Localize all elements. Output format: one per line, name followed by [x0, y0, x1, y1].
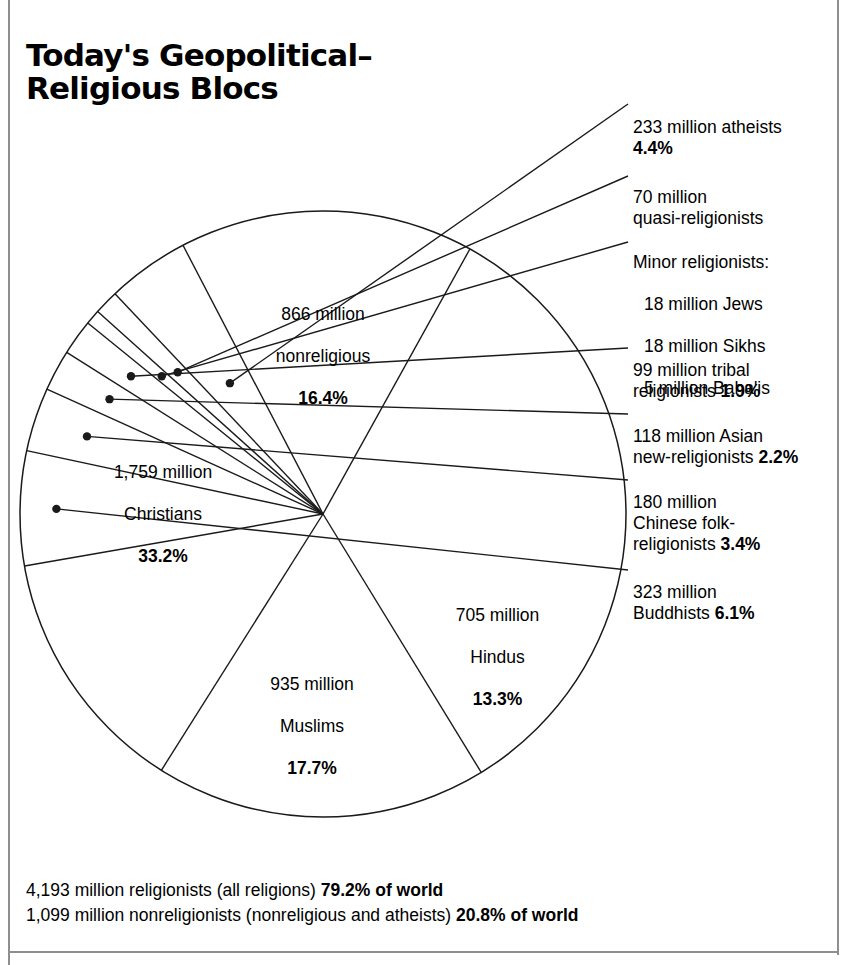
callout-label-chinese-folk-religionists: 180 million Chinese folk- religionists 3…: [633, 471, 838, 555]
callout-label-atheists-percent: 4.4%: [633, 138, 673, 158]
slice-label-nonreligious-percent: 16.4%: [298, 388, 348, 408]
slice-label-christians-line2: Christians: [124, 504, 202, 524]
callout-label-minor-item-jews: 18 million Jews: [633, 294, 838, 315]
callout-label-quasi-religionists-text: 70 million quasi-religionists: [633, 187, 763, 228]
callout-label-atheists-text: 233 million atheists: [633, 117, 782, 137]
slice-label-christians: 1,759 million Christians 33.2%: [68, 441, 258, 567]
slice-label-hindus: 705 million Hindus 13.3%: [410, 584, 585, 710]
callout-label-asian-text: 118 million Asian new-religionists: [633, 426, 763, 467]
callout-label-buddhists-text: 323 million Buddhists: [633, 582, 717, 623]
slice-label-muslims-line1: 935 million: [270, 674, 354, 694]
slice-label-christians-percent: 33.2%: [138, 546, 188, 566]
callout-label-tribal-religionists: 99 million tribal religionists 1.9%: [633, 339, 838, 402]
summary-line-religionists: 4,193 million religionists (all religion…: [26, 880, 443, 902]
summary-line-nonreligionists-text: 1,099 million nonreligionists (nonreligi…: [26, 905, 456, 925]
callout-label-chinese-percent: 3.4%: [721, 534, 761, 554]
callout-label-buddhists-percent: 6.1%: [715, 603, 755, 623]
slice-label-christians-line1: 1,759 million: [114, 462, 212, 482]
callout-label-minor-heading: Minor religionists:: [633, 252, 769, 272]
slice-label-nonreligious-line1: 866 million: [281, 304, 365, 324]
summary-line-religionists-percent: 79.2% of world: [321, 880, 444, 900]
summary-line-religionists-text: 4,193 million religionists (all religion…: [26, 880, 321, 900]
callout-label-asian-percent: 2.2%: [758, 447, 798, 467]
pie-leader-dot: [52, 505, 60, 513]
slice-label-hindus-percent: 13.3%: [473, 689, 523, 709]
callout-label-buddhists: 323 million Buddhists 6.1%: [633, 561, 838, 624]
slice-label-nonreligious: 866 million nonreligious 16.4%: [228, 283, 418, 409]
callout-label-tribal-percent: 1.9%: [721, 381, 761, 401]
summary-line-nonreligionists: 1,099 million nonreligionists (nonreligi…: [26, 905, 579, 927]
pie-leader-dot: [83, 432, 91, 440]
pie-leader-dot: [127, 372, 135, 380]
pie-leader-dot: [158, 372, 166, 380]
slice-label-muslims-percent: 17.7%: [287, 758, 337, 778]
chart-page: Today's Geopolitical– Religious Blocs 86…: [0, 0, 846, 965]
callout-label-asian-new-religionists: 118 million Asian new-religionists 2.2%: [633, 405, 843, 468]
slice-label-nonreligious-line2: nonreligious: [276, 346, 370, 366]
slice-label-muslims-line2: Muslims: [280, 716, 344, 736]
summary-line-nonreligionists-percent: 20.8% of world: [456, 905, 579, 925]
callout-label-atheists: 233 million atheists 4.4%: [633, 96, 838, 159]
slice-label-hindus-line2: Hindus: [470, 647, 524, 667]
slice-label-hindus-line1: 705 million: [456, 605, 540, 625]
pie-leader-dot: [105, 395, 113, 403]
slice-label-muslims: 935 million Muslims 17.7%: [222, 653, 402, 779]
callout-label-quasi-religionists: 70 million quasi-religionists: [633, 166, 838, 229]
